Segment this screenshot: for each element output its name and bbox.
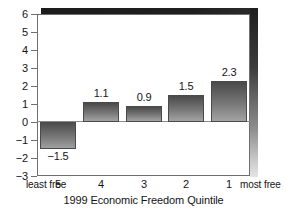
y-axis-tick: [31, 14, 37, 15]
bar-value-label: 1.5: [156, 81, 216, 92]
y-axis-tick: [31, 140, 37, 141]
y-axis-tick: [31, 104, 37, 105]
bar-value-label: 2.3: [199, 67, 259, 78]
y-axis-label: 6: [0, 9, 28, 20]
bar: [83, 102, 119, 122]
y-axis-label: 1: [0, 99, 28, 110]
bar-value-label: 0.9: [114, 92, 174, 103]
x-axis-label: 3: [124, 179, 164, 190]
y-axis-tick: [31, 50, 37, 51]
x-axis-most-free-note: most free: [240, 179, 281, 190]
y-axis-tick: [31, 32, 37, 33]
y-axis-tick: [31, 68, 37, 69]
y-axis-tick: [31, 176, 37, 177]
x-axis-label: 2: [166, 179, 206, 190]
bar: [126, 106, 162, 122]
x-axis-least-free-note: least free: [26, 179, 66, 190]
y-axis-label: −1: [0, 135, 28, 146]
y-axis-label: −2: [0, 153, 28, 164]
chart-3d-right-shadow: [250, 8, 258, 177]
y-axis-label: 0: [0, 117, 28, 128]
bar-value-label: −1.5: [28, 151, 88, 162]
x-axis-title: 1999 Economic Freedom Quintile: [0, 194, 287, 206]
bar: [40, 122, 76, 149]
y-axis-tick: [31, 86, 37, 87]
y-axis-label: 3: [0, 63, 28, 74]
bar: [168, 95, 204, 122]
y-axis-tick: [31, 122, 37, 123]
y-axis-label: 4: [0, 45, 28, 56]
y-axis-label: 5: [0, 27, 28, 38]
y-axis-label: 2: [0, 81, 28, 92]
bar: [211, 81, 247, 122]
x-axis-label: 4: [81, 179, 121, 190]
y-axis-label: −3: [0, 171, 28, 182]
bar-chart: 6543210−1−2−3 −1.51.10.91.52.3 54321leas…: [0, 0, 287, 209]
